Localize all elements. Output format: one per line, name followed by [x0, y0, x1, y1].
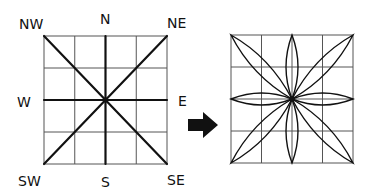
center-dot — [103, 98, 108, 103]
label-nw: NW — [19, 16, 43, 32]
right-petal-grid — [231, 35, 353, 163]
left-compass-grid — [44, 36, 167, 164]
label-n: N — [100, 11, 110, 27]
label-e: E — [178, 93, 187, 109]
label-w: W — [17, 94, 31, 110]
compass-diagram: NW N NE W E SW S SE — [0, 0, 371, 192]
label-s: S — [101, 174, 110, 190]
label-sw: SW — [18, 173, 41, 189]
petal-center-dot — [290, 97, 295, 102]
label-ne: NE — [167, 15, 186, 31]
right-arrow-icon — [188, 112, 218, 138]
label-se: SE — [167, 172, 185, 188]
